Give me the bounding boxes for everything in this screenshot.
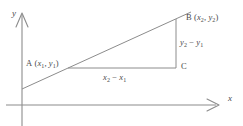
run-sub-1: 1 [123, 77, 126, 83]
label-point-c: C [181, 62, 187, 71]
label-point-a: A (x1, y1) [26, 59, 59, 68]
point-b-x-sub: 2 [201, 17, 204, 23]
y-axis-label: y [12, 9, 16, 18]
run-minus: − [110, 72, 119, 82]
point-a-y-sub: 1 [53, 63, 56, 69]
point-a-x-sub: 1 [41, 63, 44, 69]
label-rise-y2-minus-y1: y2 − y1 [180, 38, 203, 47]
point-a-paren-close: ) [56, 58, 59, 68]
label-run-x2-minus-x1: x2 − x1 [103, 73, 126, 82]
rise-sub-2: 2 [184, 42, 187, 48]
label-point-b: B (x2, y2) [186, 13, 218, 22]
x-axis-label: x [228, 94, 232, 103]
run-sub-2: 2 [107, 77, 110, 83]
point-b-paren-close: ) [215, 12, 218, 22]
point-b-y-sub: 2 [212, 17, 215, 23]
slope-triangle-figure: A (x1, y1) B (x2, y2) C y2 − y1 x2 − x1 … [0, 0, 243, 126]
rise-sub-1: 1 [200, 42, 203, 48]
rise-minus: − [187, 37, 196, 47]
